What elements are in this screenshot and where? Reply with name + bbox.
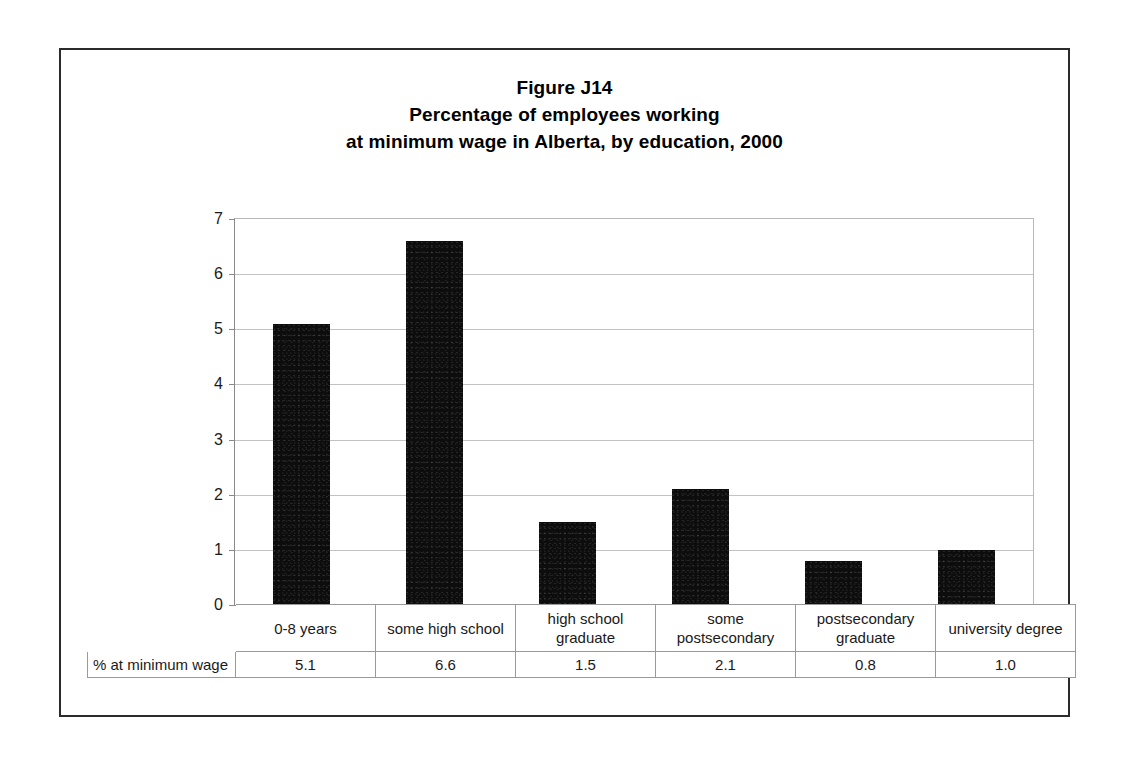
y-axis-tick-label: 5	[214, 321, 223, 337]
table-row-header: % at minimum wage	[88, 652, 236, 678]
table-row-values: % at minimum wage 5.16.61.52.10.81.0	[88, 652, 1076, 678]
category-label-line: graduate	[519, 628, 652, 647]
y-axis-tick	[229, 274, 235, 275]
page-title: Figure J14 Percentage of employees worki…	[61, 74, 1068, 155]
bar	[938, 550, 995, 605]
bar	[273, 324, 330, 605]
table-cell-category: high schoolgraduate	[516, 605, 656, 652]
y-axis-tick-label: 4	[214, 376, 223, 392]
table-cell-value: 6.6	[376, 652, 516, 678]
bar	[539, 522, 596, 605]
gridline	[235, 274, 1033, 275]
title-line-3: at minimum wage in Alberta, by education…	[61, 128, 1068, 155]
category-label-line: some	[659, 609, 792, 628]
bar	[805, 561, 862, 605]
y-axis-tick-label: 1	[214, 542, 223, 558]
category-label-line: university degree	[939, 619, 1072, 638]
y-axis-tick-label: 3	[214, 432, 223, 448]
data-table: 0-8 yearssome high schoolhigh schoolgrad…	[87, 604, 1076, 678]
y-axis-tick	[229, 495, 235, 496]
table-cell-value: 2.1	[656, 652, 796, 678]
category-label-line: high school	[519, 609, 652, 628]
gridline	[235, 495, 1033, 496]
category-label-line: postsecondary	[799, 609, 932, 628]
y-axis-tick	[229, 329, 235, 330]
plot-area: 01234567	[234, 218, 1034, 606]
table-cell-value: 1.0	[936, 652, 1076, 678]
figure-frame: Figure J14 Percentage of employees worki…	[59, 48, 1070, 717]
y-axis-tick	[229, 440, 235, 441]
gridline	[235, 384, 1033, 385]
category-label-line: postsecondary	[659, 628, 792, 647]
table-cell-category: 0-8 years	[236, 605, 376, 652]
gridline	[235, 329, 1033, 330]
y-axis-tick	[229, 550, 235, 551]
table-cell-value: 1.5	[516, 652, 656, 678]
table-cell-value: 0.8	[796, 652, 936, 678]
table-cell-value: 5.1	[236, 652, 376, 678]
title-line-1: Figure J14	[61, 74, 1068, 101]
table-cell-category: postsecondarygraduate	[796, 605, 936, 652]
category-label-line: graduate	[799, 628, 932, 647]
category-label-line: some high school	[379, 619, 512, 638]
table-cell-category: some high school	[376, 605, 516, 652]
y-axis-tick	[229, 384, 235, 385]
y-axis-tick	[229, 219, 235, 220]
bar	[672, 489, 729, 605]
title-line-2: Percentage of employees working	[61, 101, 1068, 128]
table-cell-category: somepostsecondary	[656, 605, 796, 652]
table-corner-blank	[88, 605, 236, 652]
gridline	[235, 550, 1033, 551]
y-axis-tick-label: 2	[214, 487, 223, 503]
table-cell-category: university degree	[936, 605, 1076, 652]
category-label-line: 0-8 years	[239, 619, 372, 638]
y-axis-tick-label: 6	[214, 266, 223, 282]
table-row-categories: 0-8 yearssome high schoolhigh schoolgrad…	[88, 605, 1076, 652]
gridline	[235, 440, 1033, 441]
bar	[406, 241, 463, 605]
y-axis-tick-label: 7	[214, 211, 223, 227]
